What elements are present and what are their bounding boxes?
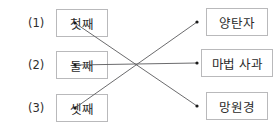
right-connector-dot-1[interactable] [195, 20, 198, 23]
item-number-3: (3) [28, 101, 44, 115]
question-number: 4. [16, 0, 26, 3]
item-number-2: (2) [28, 58, 44, 72]
right-box-2[interactable]: 마법 사과 [201, 49, 273, 77]
left-box-2[interactable]: 둘째 [56, 51, 108, 79]
matching-exercise: 4. (1) 첫째 (2) 둘째 (3) 셋째 양탄자 마법 사과 망원경 [0, 0, 277, 135]
right-box-3[interactable]: 망원경 [206, 92, 268, 120]
item-number-1: (1) [28, 16, 44, 30]
left-box-3[interactable]: 셋째 [56, 94, 108, 122]
right-connector-dot-3[interactable] [195, 104, 198, 107]
left-box-1[interactable]: 첫째 [56, 9, 108, 37]
right-box-1[interactable]: 양탄자 [206, 8, 268, 36]
right-connector-dot-2[interactable] [195, 61, 198, 64]
